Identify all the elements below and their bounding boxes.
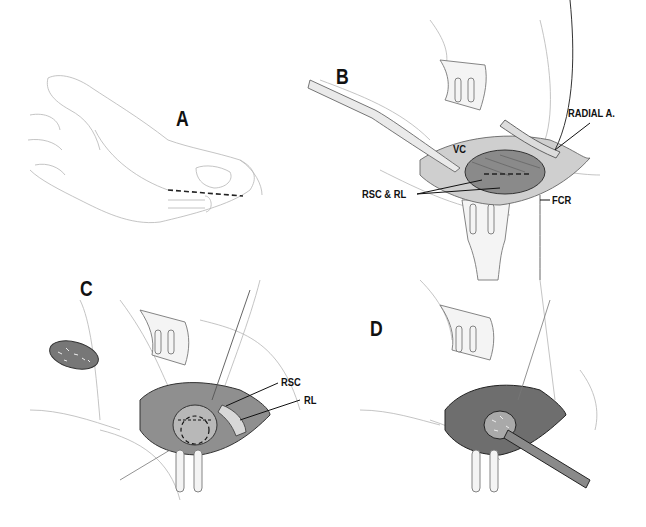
panel-c: C RSC RL: [0, 260, 340, 527]
panel-a: A: [0, 0, 323, 263]
retractor-upper: [440, 60, 486, 110]
panel-letter-b: B: [336, 64, 349, 90]
retractor-lower: [472, 450, 498, 492]
exposed-bone: [173, 405, 217, 445]
label-fcr: FCR: [552, 194, 571, 206]
label-rsc-rl: RSC & RL: [362, 188, 406, 200]
label-radial-artery: RADIAL A.: [568, 107, 615, 119]
panel-letter-d: D: [370, 316, 383, 342]
label-vc: VC: [453, 143, 466, 155]
impactor-instrument: [504, 430, 590, 488]
bone-graft: [46, 336, 101, 374]
panel-b: B VC RADIAL A. RSC & RL FCR: [300, 0, 646, 280]
exposure-illustration: [300, 0, 646, 280]
ligament-exposure-illustration: [0, 260, 340, 527]
label-rsc: RSC: [281, 376, 301, 388]
retractor-lower: [176, 450, 202, 492]
label-rl: RL: [304, 394, 316, 406]
panel-letter-a: A: [176, 106, 189, 132]
panel-letter-c: C: [80, 276, 93, 302]
instrument-left: [308, 80, 460, 172]
incision-line: [168, 190, 243, 196]
panel-d: D: [340, 260, 646, 527]
graft-insertion-illustration: [340, 260, 646, 527]
retractor-upper: [140, 310, 189, 365]
hand-illustration: [0, 0, 323, 263]
retractor-upper: [440, 305, 494, 360]
